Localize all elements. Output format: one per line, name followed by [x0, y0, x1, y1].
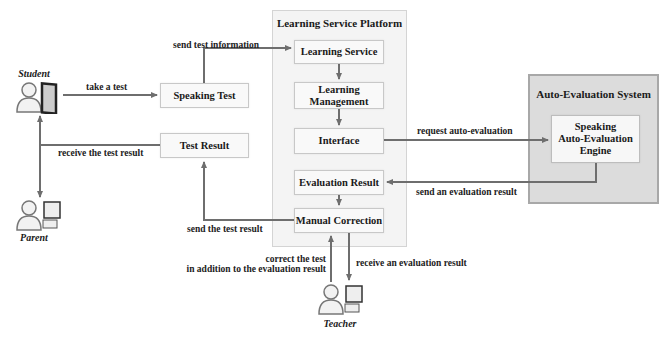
label-correct-line1: correct the test: [178, 254, 326, 264]
label-receive-the-test-result: receive the test result: [58, 148, 143, 158]
engine-label-line1: Speaking: [575, 121, 616, 133]
student-tablet-icon: [14, 80, 62, 118]
engine-label-line3: Engine: [580, 145, 612, 157]
label-send-an-evaluation-result: send an evaluation result: [416, 187, 517, 197]
manual-correction-box: Manual Correction: [294, 208, 384, 233]
evaluation-result-box: Evaluation Result: [294, 170, 384, 195]
teacher-computer-icon: [316, 282, 366, 322]
parent-label: Parent: [4, 232, 64, 243]
speaking-auto-evaluation-engine-box: Speaking Auto-Evaluation Engine: [551, 115, 640, 163]
label-send-test-information: send test information: [173, 40, 259, 50]
learning-management-box: Learning Management: [294, 82, 384, 109]
label-correct-the-test: correct the test in addition to the eval…: [178, 254, 326, 274]
engine-label-line2: Auto-Evaluation: [558, 133, 633, 145]
interface-box: Interface: [294, 128, 384, 154]
label-request-auto-evaluation: request auto-evaluation: [417, 126, 513, 136]
label-receive-an-evaluation-result: receive an evaluation result: [356, 258, 467, 268]
teacher-label: Teacher: [310, 318, 370, 329]
speaking-test-box: Speaking Test: [160, 83, 249, 108]
label-send-the-test-result: send the test result: [187, 224, 263, 234]
student-label: Student: [4, 68, 64, 79]
test-result-box: Test Result: [160, 133, 249, 158]
label-take-a-test: take a test: [86, 82, 127, 92]
learning-service-box: Learning Service: [294, 40, 384, 64]
label-correct-line2: in addition to the evaluation result: [178, 264, 326, 274]
